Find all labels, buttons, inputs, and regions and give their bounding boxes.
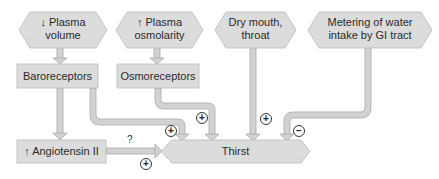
label-line: throat [215,29,296,42]
label-line: intake by GI tract [308,29,432,42]
label-line: volume [19,29,107,42]
question-mark-annotation: ? [127,134,133,145]
label-plasma-volume: ↓ Plasma volume [19,16,107,42]
arrow-drymouth-to-thirst [246,47,260,141]
label-line: Dry mouth, [215,16,296,29]
label-gi-metering: Metering of water intake by GI tract [308,16,432,42]
label-line: ↑ Plasma [116,16,203,29]
plus-sign-baroreceptors: + [165,125,177,137]
arrow-osmolarity-to-osmoreceptors [150,47,164,64]
minus-sign-gi: − [293,125,305,137]
plus-sign-osmoreceptors: + [196,112,208,124]
label-baroreceptors: Baroreceptors [17,70,98,83]
label-thirst: Thirst [161,145,310,158]
label-line: Metering of water [308,16,432,29]
plus-sign-angiotensin: + [140,158,152,170]
plus-sign-drymouth: + [260,113,272,125]
label-angiotensin: ↑ Angiotensin II [17,145,106,158]
arrow-gi-to-thirst [284,47,371,135]
label-osmoreceptors: Osmoreceptors [117,70,199,83]
label-dry-mouth: Dry mouth, throat [215,16,296,42]
label-plasma-osmolarity: ↑ Plasma osmolarity [116,16,203,42]
arrow-baroreceptors-to-angiotensin [53,88,67,140]
label-line: osmolarity [116,29,203,42]
label-line: ↓ Plasma [19,16,107,29]
arrow-angiotensin-to-thirst [106,144,162,158]
arrow-volume-to-baroreceptors [53,47,67,64]
